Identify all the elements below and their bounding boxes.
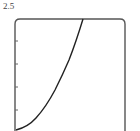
plot-frame xyxy=(15,19,125,131)
plot-area xyxy=(0,0,140,131)
data-curve xyxy=(16,19,83,130)
